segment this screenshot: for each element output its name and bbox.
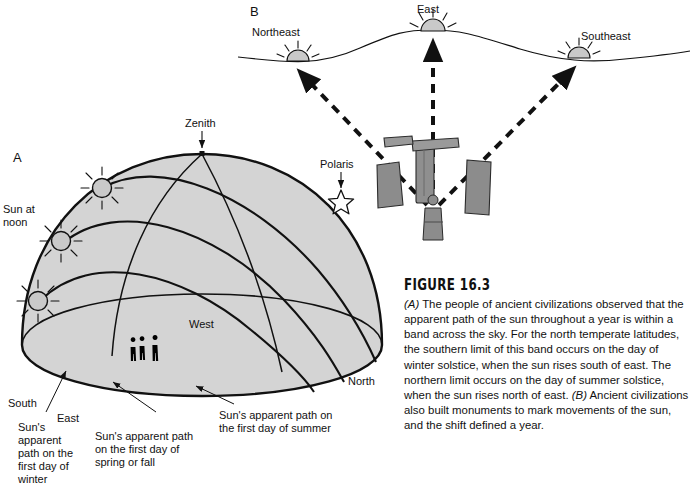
label-sun-path-summer: Sun's apparent path on the first day of …: [219, 409, 332, 435]
figure-caption: FIGURE 16.3 (A) The people of ancient ci…: [404, 276, 690, 433]
label-north: North: [348, 375, 375, 388]
label-west: West: [189, 318, 214, 331]
panel-a-dome-group: [17, 131, 382, 412]
label-zenith: Zenith: [185, 117, 216, 130]
sightline-southeast: [439, 70, 572, 205]
label-east-horizon: East: [417, 3, 439, 16]
label-sun-at-noon: Sun at noon: [3, 203, 35, 229]
figure-caption-text: (A) The people of ancient civilizations …: [404, 297, 690, 433]
label-sun-path-winter: Sun's apparent path on the first day of …: [18, 421, 73, 486]
caption-text-a: The people of ancient civilizations obse…: [404, 298, 684, 401]
panel-a-letter: A: [13, 150, 22, 165]
people-silhouette-icon: [131, 335, 159, 361]
label-southeast: Southeast: [581, 30, 631, 43]
panel-b-letter: B: [250, 4, 259, 19]
label-south: South: [8, 397, 37, 410]
dome-shape: [22, 154, 382, 396]
sightline-group: [301, 44, 572, 205]
caption-marker-b: (B): [572, 389, 587, 401]
label-sun-path-spring-fall: Sun's apparent path on the first day of …: [95, 430, 193, 469]
label-polaris: Polaris: [320, 158, 354, 171]
zenith-dot-icon: [200, 151, 205, 156]
label-northeast: Northeast: [252, 26, 300, 39]
figure-number-label: FIGURE 16.3: [404, 276, 656, 294]
leader-winter: [46, 371, 66, 412]
caption-marker-a: (A): [404, 298, 419, 310]
standing-stone-right: [465, 160, 491, 215]
rising-sun-northeast: [277, 41, 319, 61]
standing-stone-left: [377, 162, 403, 208]
